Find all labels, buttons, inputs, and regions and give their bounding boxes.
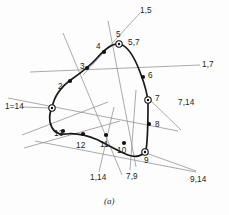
- line-through-5-7-upper: [63, 33, 122, 175]
- tangent-label-1-5: 1,5: [140, 7, 152, 15]
- point-label-3: 3: [80, 63, 85, 71]
- tangent-label-1-7: 1,7: [202, 61, 214, 69]
- point-marker-dot: [104, 133, 108, 137]
- point-label-10: 10: [117, 147, 126, 155]
- line-9-14-short: [146, 153, 196, 171]
- tangent-label-9-14: 9,14: [190, 176, 206, 184]
- tangent-label-1-14: 1,14: [90, 174, 106, 182]
- point-marker-core: [118, 43, 120, 45]
- point-marker-core: [144, 151, 146, 153]
- figure-container: 1=142345678910111213 1,55,71,77,147,99,1…: [0, 0, 229, 215]
- point-marker-layer: [49, 41, 151, 155]
- tangent-line-1-7: [30, 65, 200, 72]
- point-marker-dot: [102, 50, 106, 54]
- point-marker-core: [147, 99, 149, 101]
- auxiliary-line-layer: [22, 33, 196, 175]
- point-marker-dot: [85, 66, 89, 70]
- tangent-label-5-7: 5,7: [128, 39, 140, 47]
- point-marker-dot: [68, 79, 72, 83]
- point-marker-dot: [141, 75, 145, 79]
- tangent-line-7-14: [8, 98, 178, 131]
- point-label-6: 6: [148, 72, 153, 80]
- tangent-label-7-14: 7,14: [178, 99, 194, 107]
- point-label-7: 7: [155, 95, 160, 103]
- tangent-label-7-9: 7,9: [126, 173, 138, 181]
- tangent-line-9-14: [35, 141, 196, 172]
- point-label-11: 11: [100, 141, 109, 149]
- line-1-14-ray-left: [22, 102, 108, 135]
- point-label-5: 5: [116, 31, 121, 39]
- closed-curve: [50, 44, 148, 156]
- point-label-8: 8: [155, 121, 160, 129]
- point-marker-dot: [147, 122, 151, 126]
- point-label-4: 4: [96, 43, 101, 51]
- point-label-12: 12: [76, 142, 85, 150]
- tangent-line-7-9: [130, 90, 136, 170]
- point-label-1-14: 1=14: [5, 103, 24, 111]
- point-label-2: 2: [58, 83, 63, 91]
- leader-line-1-14: [22, 107, 50, 108]
- figure-caption: (a): [104, 196, 115, 206]
- point-label-13: 13: [54, 130, 63, 138]
- point-marker-dot: [122, 141, 126, 145]
- point-marker-dot: [81, 132, 85, 136]
- point-label-9: 9: [144, 157, 149, 165]
- point-marker-core: [51, 107, 53, 109]
